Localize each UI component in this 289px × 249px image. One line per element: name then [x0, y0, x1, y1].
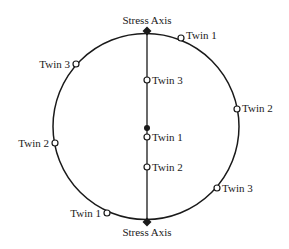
twin-marker-rim-twin1-bottom	[104, 210, 110, 216]
center-filled-dot	[144, 125, 150, 131]
twin-marker-axis-twin1	[144, 134, 150, 140]
twin-marker-axis-twin2	[144, 164, 150, 170]
twin-label-axis-twin3: Twin 3	[152, 74, 183, 86]
stress-axis-label-top: Stress Axis	[122, 14, 171, 26]
twin-label-rim-twin1-top: Twin 1	[186, 29, 217, 41]
twin-marker-rim-twin2-left	[52, 140, 58, 146]
twin-marker-rim-twin3-right	[214, 185, 220, 191]
stress-axis-label-bottom: Stress Axis	[122, 226, 171, 238]
twin-marker-rim-twin2-right	[234, 106, 240, 112]
twin-marker-rim-twin3-left	[73, 61, 79, 67]
twin-marker-rim-twin1-top	[178, 35, 184, 41]
twin-label-axis-twin2: Twin 2	[152, 161, 183, 173]
stereographic-diagram: Stress AxisStress AxisTwin 1Twin 3Twin 2…	[0, 0, 289, 249]
twin-label-rim-twin3-right: Twin 3	[222, 182, 253, 194]
twin-label-rim-twin2-left: Twin 2	[18, 137, 49, 149]
twin-marker-axis-twin3	[144, 77, 150, 83]
twin-label-axis-twin1: Twin 1	[152, 131, 183, 143]
twin-label-rim-twin3-left: Twin 3	[39, 58, 70, 70]
twin-label-rim-twin2-right: Twin 2	[242, 102, 273, 114]
twin-label-rim-twin1-bottom: Twin 1	[70, 207, 101, 219]
